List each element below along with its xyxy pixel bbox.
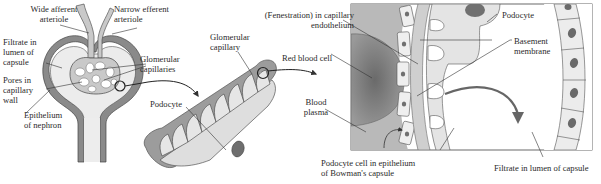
label-glomerular-capillary: Glomerular capillary bbox=[210, 32, 250, 52]
label-podocyte-right: Podocyte bbox=[502, 10, 534, 20]
label-podocyte-middle: Podocyte bbox=[150, 99, 182, 109]
label-glomerular-capillaries: Glomerular capillaries bbox=[140, 54, 180, 74]
label-filtrate-lumen: Filtrate in lumen of capsule bbox=[494, 163, 589, 173]
label-afferent-arteriole: Wide afferent arteriole bbox=[24, 4, 84, 24]
glomerulus-diagram: Wide afferent arteriole Narrow efferent … bbox=[0, 0, 601, 184]
filtration-barrier-detail bbox=[351, 3, 592, 150]
label-epithelium-nephron: Epithelium of nephron bbox=[24, 110, 62, 130]
bowmans-capsule bbox=[43, 4, 148, 162]
label-blood-plasma: Blood plasma bbox=[301, 97, 331, 117]
label-pores: Pores in capillary wall bbox=[3, 75, 33, 105]
label-podocyte-epithelium: Podocyte cell in epithelium of Bowman's … bbox=[321, 158, 415, 178]
label-red-blood-cell: Red blood cell bbox=[282, 53, 332, 63]
label-filtrate-left: Filtrate in lumen of capsule bbox=[3, 37, 37, 67]
label-fenestration: (Fenestration) in capillary endothelium bbox=[244, 10, 354, 30]
label-efferent-arteriole: Narrow efferent arteriole bbox=[114, 4, 169, 24]
label-basement-membrane: Basement membrane bbox=[514, 36, 550, 56]
podocyte-capillary bbox=[144, 60, 276, 168]
